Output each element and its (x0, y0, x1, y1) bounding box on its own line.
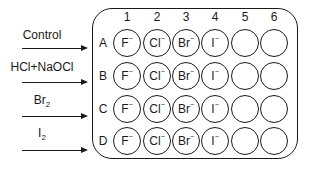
well-b6 (260, 62, 288, 90)
well-d5 (231, 127, 259, 155)
ion-label: I− (211, 102, 218, 116)
well-a4: I− (201, 29, 229, 57)
ion-label: Cl− (149, 69, 164, 83)
treatment-label-control: Control (0, 28, 84, 42)
well-a2: Cl− (143, 29, 171, 57)
ion-label: F− (121, 102, 132, 116)
column-number-4: 4 (205, 10, 225, 24)
arrow-row-a (22, 48, 86, 49)
arrow-row-d (22, 150, 86, 151)
well-a5 (231, 29, 259, 57)
ion-label: Cl− (149, 102, 164, 116)
well-c4: I− (201, 95, 229, 123)
arrow-row-c (22, 116, 86, 117)
well-d6 (260, 127, 288, 155)
column-number-2: 2 (147, 10, 167, 24)
well-b1: F− (113, 62, 141, 90)
ion-label: F− (121, 36, 132, 50)
well-b2: Cl− (143, 62, 171, 90)
well-d2: Cl− (143, 127, 171, 155)
ion-label: Br− (178, 134, 194, 148)
ion-label: Br− (178, 102, 194, 116)
well-a1: F− (113, 29, 141, 57)
ion-label: I− (211, 36, 218, 50)
row-letter-b: B (97, 69, 109, 83)
well-a3: Br− (172, 29, 200, 57)
well-c6 (260, 95, 288, 123)
treatment-label-i2: I2 (0, 126, 84, 142)
column-number-1: 1 (117, 10, 137, 24)
arrow-row-b (22, 82, 86, 83)
ion-label: Br− (178, 69, 194, 83)
row-letter-a: A (97, 36, 109, 50)
well-c3: Br− (172, 95, 200, 123)
well-d1: F− (113, 127, 141, 155)
row-letter-d: D (97, 134, 109, 148)
well-c1: F− (113, 95, 141, 123)
ion-label: I− (211, 134, 218, 148)
column-number-5: 5 (235, 10, 255, 24)
ion-label: Br− (178, 36, 194, 50)
well-c5 (231, 95, 259, 123)
column-number-3: 3 (176, 10, 196, 24)
well-b5 (231, 62, 259, 90)
ion-label: I− (211, 69, 218, 83)
well-b3: Br− (172, 62, 200, 90)
well-c2: Cl− (143, 95, 171, 123)
ion-label: Cl− (149, 134, 164, 148)
treatment-label-hcl-naocl: HCl+NaOCl (0, 60, 84, 74)
ion-label: F− (121, 134, 132, 148)
well-d4: I− (201, 127, 229, 155)
well-d3: Br− (172, 127, 200, 155)
ion-label: Cl− (149, 36, 164, 50)
treatment-label-br2: Br2 (0, 93, 84, 109)
well-b4: I− (201, 62, 229, 90)
row-letter-c: C (97, 102, 109, 116)
well-a6 (260, 29, 288, 57)
ion-label: F− (121, 69, 132, 83)
column-number-6: 6 (264, 10, 284, 24)
